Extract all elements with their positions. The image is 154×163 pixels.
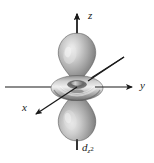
orbital-torus	[51, 76, 103, 101]
axis-label-z: z	[88, 10, 92, 21]
orbital-name-superscript: 2	[90, 145, 94, 153]
orbital-name-label: dz2	[82, 142, 94, 155]
orbital-figure: z y x dz2	[0, 0, 154, 163]
axis-label-x: x	[22, 102, 27, 113]
dz2-orbital-illustration	[0, 0, 154, 163]
axis-label-y: y	[140, 80, 145, 91]
